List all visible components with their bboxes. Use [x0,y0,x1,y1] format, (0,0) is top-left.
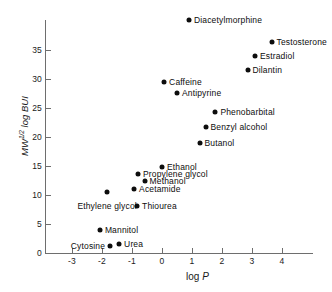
x-tick-label: 3 [250,256,255,266]
data-point-label: Ethylene glycol [77,201,136,211]
data-point-marker [135,204,140,209]
data-point-label: Thiourea [142,201,177,211]
data-point-label: Testosterone [277,37,327,47]
data-point-label: Caffeine [169,77,202,87]
y-tick-label: 5 [26,219,42,229]
data-point-marker [97,227,102,232]
x-tick-label: 2 [220,256,225,266]
y-tick-mark [46,79,51,80]
data-point-marker [105,190,110,195]
y-tick-mark [46,50,51,51]
data-point-marker [132,187,137,192]
x-tick-label: -3 [68,256,76,266]
x-tick-label: 0 [160,256,165,266]
y-axis-title: MW1/2 log BUI [18,76,30,176]
x-tick-mark [162,248,163,253]
x-tick-label: -1 [128,256,136,266]
scatter-plot: -3-2-10123405101520253035 Diacetylmorphi… [0,0,332,292]
data-point-marker [162,79,167,84]
data-point-label: Acetamide [139,184,181,194]
data-point-marker [203,125,208,130]
y-tick-mark [46,108,51,109]
y-tick-mark [46,137,51,138]
y-tick-label: 0 [26,248,42,258]
y-tick-mark [46,224,51,225]
data-point-label: Estradiol [260,51,294,61]
x-tick-label: 1 [190,256,195,266]
y-tick-mark [46,166,51,167]
data-point-marker [269,40,274,45]
y-tick-mark [46,195,51,196]
x-tick-mark [192,248,193,253]
x-axis-title: log P [186,271,209,282]
data-point-label: Diacetylmorphine [194,15,262,25]
data-point-label: Cytosine [71,241,105,251]
data-point-label: Urea [124,239,143,249]
x-tick-mark [252,248,253,253]
x-tick-label: -2 [98,256,106,266]
data-point-marker [245,67,250,72]
data-point-marker [108,244,113,249]
y-tick-label: 10 [26,190,42,200]
data-point-marker [175,90,180,95]
data-point-marker [117,242,122,247]
data-point-marker [142,179,147,184]
data-point-marker [213,110,218,115]
y-tick-mark [46,253,51,254]
data-point-marker [136,171,141,176]
x-tick-label: 4 [280,256,285,266]
data-point-label: Mannitol [105,225,138,235]
data-point-label: Antipyrine [182,88,221,98]
data-point-marker [197,140,202,145]
data-point-label: Butanol [205,138,235,148]
data-point-label: Phenobarbital [220,107,274,117]
data-point-marker [253,53,258,58]
data-point-label: Dilantin [253,65,283,75]
x-tick-mark [222,248,223,253]
x-axis-line [45,253,313,254]
x-tick-mark [282,248,283,253]
data-point-label: Benzyl alcohol [211,122,268,132]
y-tick-label: 35 [26,45,42,55]
data-point-marker [187,17,192,22]
